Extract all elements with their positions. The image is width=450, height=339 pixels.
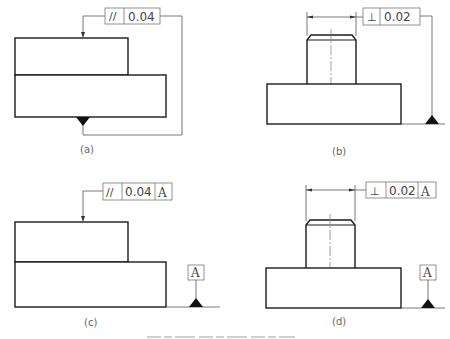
feature-control-frame-c: // 0.04 A xyxy=(103,183,172,200)
base-block xyxy=(266,268,401,308)
pin xyxy=(306,220,355,268)
tolerance-value: 0.02 xyxy=(389,184,416,198)
feature-control-frame-a: // 0.04 xyxy=(105,8,160,24)
parallelism-icon: // xyxy=(109,10,117,23)
arrowhead-icon xyxy=(307,16,313,19)
datum-feature-a-c: A xyxy=(188,265,204,307)
datum-triangle-icon xyxy=(76,117,90,126)
perpendicularity-icon: ⊥ xyxy=(367,11,377,24)
arrowhead-icon xyxy=(350,16,356,19)
datum-triangle-icon xyxy=(425,115,439,124)
datum-triangle-icon xyxy=(421,299,435,308)
datum-leader-b xyxy=(420,16,432,116)
panel-c: A // 0.04 A (c) xyxy=(15,183,220,328)
leader-line-c xyxy=(83,191,103,218)
base-block xyxy=(267,84,401,124)
datum-letter: A xyxy=(190,266,200,280)
arrowhead-icon xyxy=(349,189,355,192)
arrowhead-icon xyxy=(306,189,312,192)
perpendicularity-icon: ⊥ xyxy=(370,185,380,198)
panel-b: ⊥ 0.02 (b) xyxy=(267,8,445,157)
panel-label-d: (d) xyxy=(332,316,346,327)
datum-triangle-icon xyxy=(189,298,203,307)
panel-label-b: (b) xyxy=(332,146,346,157)
arrowhead-icon xyxy=(81,32,85,38)
datum-reference: A xyxy=(420,185,430,199)
parallelism-icon: // xyxy=(106,186,114,199)
datum-letter: A xyxy=(422,266,432,280)
feature-control-frame-d: ⊥ 0.02 A xyxy=(366,182,436,199)
panel-label-c: (c) xyxy=(84,317,97,328)
lower-block xyxy=(15,75,166,117)
datum-feature-a-d: A xyxy=(420,265,436,308)
tolerance-value: 0.04 xyxy=(125,185,152,199)
panel-label-a: (a) xyxy=(80,144,94,155)
panel-a: // 0.04 (a) xyxy=(15,8,182,155)
datum-reference: A xyxy=(157,186,167,200)
upper-block xyxy=(15,38,128,75)
upper-block xyxy=(15,222,128,262)
panel-d: A ⊥ 0.02 A (d) xyxy=(266,182,445,327)
tolerance-value: 0.04 xyxy=(128,10,155,24)
pin xyxy=(307,35,356,84)
feature-control-frame-b: ⊥ 0.02 xyxy=(363,8,420,25)
lower-block xyxy=(15,262,166,307)
tolerance-diagram: // 0.04 (a) ⊥ 0.02 (b) xyxy=(0,0,450,339)
leader-line-a xyxy=(83,16,105,34)
arrowhead-icon xyxy=(81,216,85,222)
tolerance-value: 0.02 xyxy=(384,10,411,24)
